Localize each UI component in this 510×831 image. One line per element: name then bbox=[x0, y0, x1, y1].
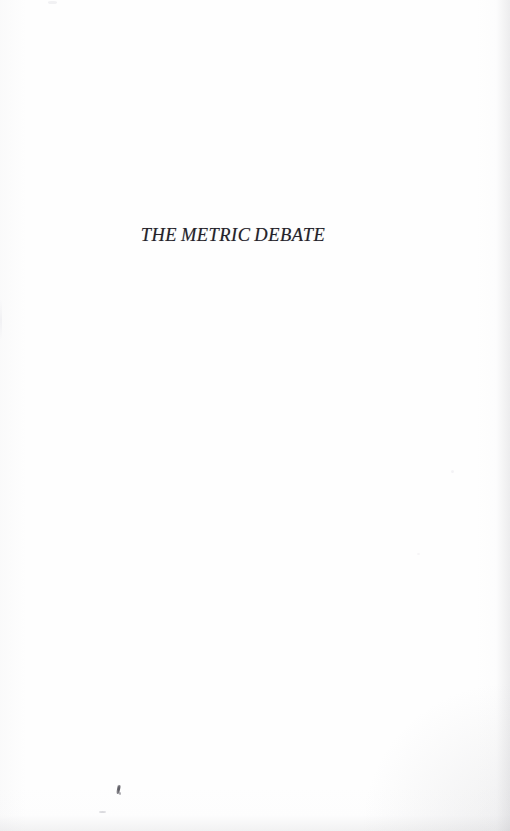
ink-speck-icon bbox=[116, 785, 120, 794]
paper-texture-overlay bbox=[0, 0, 510, 831]
scan-speck-top-icon bbox=[48, 1, 57, 4]
page-corner-shadow bbox=[360, 681, 510, 831]
scan-speck-lower-icon bbox=[417, 553, 420, 555]
half-title-block: THE METRIC DEBATE bbox=[0, 225, 510, 245]
ink-speck-tail-icon bbox=[119, 792, 121, 795]
faint-smudge-icon bbox=[99, 811, 106, 813]
page-title: THE METRIC DEBATE bbox=[141, 225, 325, 245]
scanned-page: THE METRIC DEBATE bbox=[0, 0, 510, 831]
scan-speck-middle-icon bbox=[451, 470, 454, 473]
left-edge-scan-streak bbox=[0, 300, 2, 340]
